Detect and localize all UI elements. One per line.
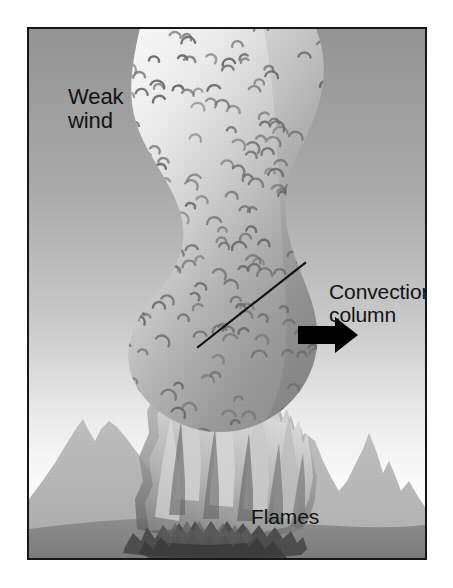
figure-root: Weak wind Convection column Flames: [0, 0, 453, 588]
label-flames: Flames: [251, 506, 319, 529]
label-weak-wind: Weak wind: [68, 85, 123, 133]
label-convection-column: Convection column: [329, 281, 427, 326]
figure-frame: Weak wind Convection column Flames: [27, 27, 427, 560]
